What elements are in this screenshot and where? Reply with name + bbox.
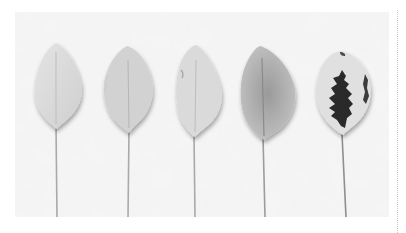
leaves-photo: Five leaves arranged in a row, increasin… xyxy=(15,12,389,217)
dotted-divider xyxy=(397,10,398,233)
